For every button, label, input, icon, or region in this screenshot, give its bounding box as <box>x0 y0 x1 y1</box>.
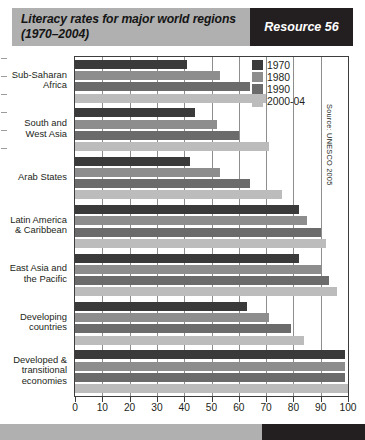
legend-swatch <box>252 60 263 70</box>
page-footer-bar <box>0 424 365 440</box>
legend-label: 1980 <box>267 72 290 83</box>
y-axis-label: Developingcountries <box>0 312 67 333</box>
bar <box>75 190 282 199</box>
bar-group <box>75 157 348 200</box>
y-axis-label: South andWest Asia <box>0 118 67 139</box>
legend-label: 1990 <box>267 84 290 95</box>
bar <box>75 254 299 263</box>
x-axis-tick-labels: 0102030405060708090100 <box>0 402 365 418</box>
x-axis-tick-label: 20 <box>115 402 145 413</box>
bar <box>75 71 220 80</box>
y-axis-label: Latin America& Caribbean <box>0 215 67 236</box>
chart-legend: 1970198019902000-04 <box>252 59 344 108</box>
y-axis-label-line: & Caribbean <box>0 225 67 236</box>
bar <box>75 350 345 359</box>
legend-swatch <box>252 72 263 82</box>
y-axis-label-line: economies <box>0 376 67 387</box>
legend-swatch <box>252 97 263 107</box>
bar <box>75 131 239 140</box>
bar <box>75 302 247 311</box>
y-axis-label: Sub-SaharanAfrica <box>0 70 67 91</box>
x-axis-tick-label: 90 <box>306 402 336 413</box>
bar-group <box>75 205 348 248</box>
bar <box>75 205 299 214</box>
chart-title-line-1: Literacy rates for major world regions <box>21 12 250 27</box>
legend-swatch <box>252 84 263 94</box>
bar <box>75 179 250 188</box>
bar <box>75 82 250 91</box>
bar-group <box>75 108 348 151</box>
legend-item: 1970 <box>252 59 344 71</box>
bar <box>75 373 345 382</box>
bar <box>75 276 329 285</box>
y-axis-label: East Asia andthe Pacific <box>0 263 67 284</box>
bar <box>75 216 307 225</box>
bar <box>75 120 217 129</box>
y-axis-label-line: West Asia <box>0 129 67 140</box>
bar <box>75 60 187 69</box>
bar <box>75 168 220 177</box>
bar <box>75 157 190 166</box>
bar-group <box>75 350 348 393</box>
chart-title-line-2: (1970–2004) <box>21 27 250 42</box>
x-axis-tick-label: 80 <box>278 402 308 413</box>
y-axis-label-line: Africa <box>0 80 67 91</box>
x-axis-tick-label: 70 <box>251 402 281 413</box>
bar <box>75 94 266 103</box>
legend-label: 1970 <box>267 60 290 71</box>
footer-right-block <box>262 424 365 440</box>
legend-item: 1990 <box>252 83 344 95</box>
bar-group <box>75 302 348 345</box>
x-axis-tick-label: 40 <box>169 402 199 413</box>
x-axis-tick-label: 50 <box>197 402 227 413</box>
legend-item: 1980 <box>252 71 344 83</box>
x-axis-tick-label: 10 <box>87 402 117 413</box>
y-axis-labels: Sub-SaharanAfricaSouth andWest AsiaArab … <box>0 56 70 397</box>
resource-badge: Resource 56 <box>250 8 353 46</box>
y-axis-label-line: countries <box>0 322 67 333</box>
bar <box>75 142 269 151</box>
bar <box>75 336 304 345</box>
y-axis-label: Developed &transitionaleconomies <box>0 355 67 387</box>
bar <box>75 313 269 322</box>
chart-title-block: Literacy rates for major world regions (… <box>12 8 250 46</box>
y-axis-label-line: Arab States <box>0 172 67 183</box>
bar <box>75 265 321 274</box>
x-axis-tick-label: 60 <box>224 402 254 413</box>
bar <box>75 384 348 393</box>
footer-left-block <box>0 424 262 440</box>
source-note: Source: UNESCO 2005 <box>325 104 334 185</box>
bar <box>75 108 195 117</box>
bar <box>75 239 326 248</box>
x-axis-tick-label: 100 <box>333 402 363 413</box>
chart-header-banner: Literacy rates for major world regions (… <box>12 8 353 46</box>
bar <box>75 324 291 333</box>
bar-group <box>75 254 348 297</box>
y-axis-label: Arab States <box>0 172 67 183</box>
y-axis-label-line: the Pacific <box>0 274 67 285</box>
bar <box>75 228 321 237</box>
x-axis-tick-label: 0 <box>60 402 90 413</box>
x-axis-tick-label: 30 <box>142 402 172 413</box>
legend-label: 2000-04 <box>267 96 305 107</box>
chart-bars-area <box>75 57 348 396</box>
bar <box>75 362 345 371</box>
bar <box>75 287 337 296</box>
